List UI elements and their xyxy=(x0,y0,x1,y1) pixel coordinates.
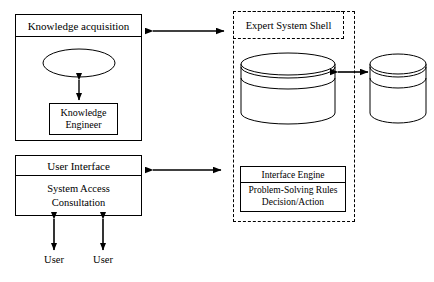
expert-system-shell-label: Expert System Shell xyxy=(246,20,332,31)
user-interface-line-1: System Access xyxy=(47,182,110,195)
knowledge-engineer-line-2: Engineer xyxy=(65,119,101,132)
user-label-right: User xyxy=(81,254,125,265)
knowledge-base-body-line-1: Logical xyxy=(241,89,336,100)
knowledge-engineer-text: Knowledge Engineer xyxy=(50,104,117,134)
user-interface-line-2: Consultation xyxy=(52,196,106,209)
interface-engine-line-1: Problem-Solving Rules xyxy=(249,185,338,197)
interface-engine-header-label: Interface Engine xyxy=(261,170,324,180)
user-label-left: User xyxy=(32,254,76,265)
knowledge-acquisition-header-label: Knowledge acquisition xyxy=(28,20,130,32)
interface-engine-header: Interface Engine xyxy=(241,167,345,183)
user-interface-header-label: User Interface xyxy=(47,160,110,172)
knowledge-engineer-line-1: Knowledge xyxy=(60,107,106,120)
database-label: Database xyxy=(370,70,426,81)
experts-ellipse-label: Experts xyxy=(43,56,115,67)
knowledge-base-label: Knowledge Base xyxy=(241,70,336,81)
user-interface-header: User Interface xyxy=(16,156,141,176)
expert-system-diagram: Knowledge acquisition Experts Knowledge … xyxy=(0,0,434,282)
user-interface-body: System Access Consultation xyxy=(16,176,141,215)
interface-engine-body: Problem-Solving Rules Decision/Action xyxy=(241,183,345,211)
knowledge-base-body-line-2: Data xyxy=(241,104,336,115)
expert-system-shell-header-box: Expert System Shell xyxy=(233,11,344,39)
knowledge-acquisition-header: Knowledge acquisition xyxy=(16,15,141,37)
user-interface-box: User Interface System Access Consultatio… xyxy=(15,155,142,216)
database-body-line-1: Factual xyxy=(370,89,426,100)
database-body-line-2: Data xyxy=(370,104,426,115)
interface-engine-box: Interface Engine Problem-Solving Rules D… xyxy=(240,166,346,212)
knowledge-engineer-box: Knowledge Engineer xyxy=(49,103,118,135)
interface-engine-line-2: Decision/Action xyxy=(262,197,324,209)
